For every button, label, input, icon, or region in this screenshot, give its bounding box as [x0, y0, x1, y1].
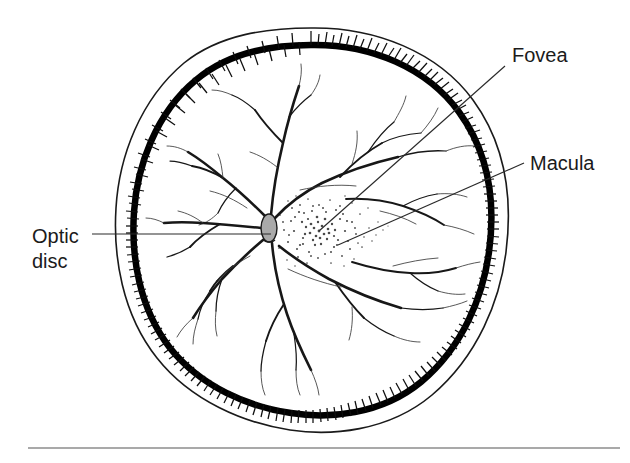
ora-serrata-band [133, 45, 491, 415]
retina-diagram-canvas: Fovea Macula Optic disc [0, 0, 630, 463]
label-optic-disc-line1: Optic [32, 225, 79, 247]
label-fovea: Fovea [512, 44, 568, 66]
label-macula: Macula [530, 152, 595, 174]
retina-figure: Fovea Macula Optic disc [0, 0, 630, 463]
optic-disc [261, 214, 277, 242]
retinal-vessels [146, 64, 480, 395]
ora-serrata-group [126, 31, 499, 423]
label-optic-disc-line2: disc [32, 250, 68, 272]
leader-macula [338, 163, 524, 245]
